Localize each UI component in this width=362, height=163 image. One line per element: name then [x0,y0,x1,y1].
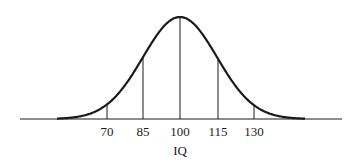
x-tick-label: 100 [170,124,190,140]
sd-marker-lines [107,17,254,119]
x-tick-label: 130 [244,124,264,140]
x-tick-label: 115 [208,124,227,140]
x-axis-label: IQ [173,143,187,159]
x-tick-label: 85 [137,124,150,140]
normal-curve [57,17,305,119]
x-tick-label: 70 [101,124,114,140]
